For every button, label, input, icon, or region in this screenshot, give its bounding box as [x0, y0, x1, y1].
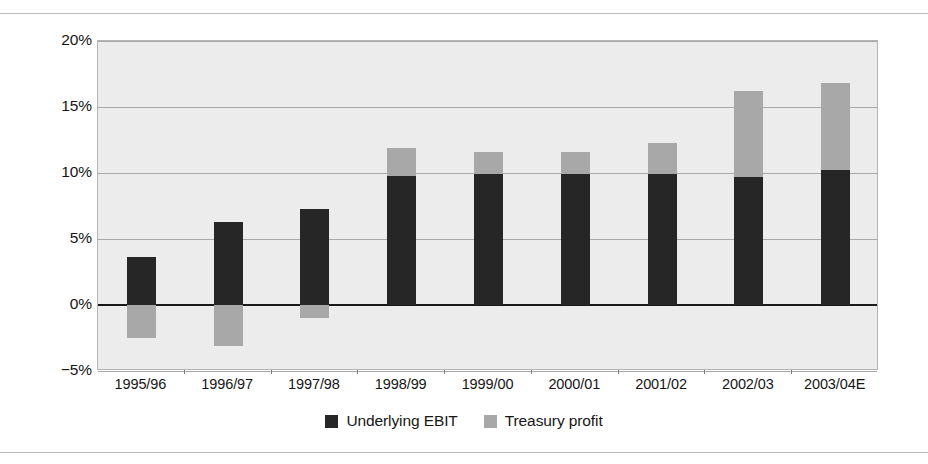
y-axis-tick-label: 20%	[6, 31, 92, 49]
x-axis-tick-label: 2001/02	[635, 376, 687, 392]
bar-segment-treasury-profit	[734, 91, 763, 177]
bar-segment-underlying-ebit	[214, 222, 243, 305]
bottom-divider-rule	[0, 452, 928, 453]
legend-item[interactable]: Treasury profit	[484, 412, 603, 430]
top-divider-rule	[0, 13, 928, 14]
legend-item[interactable]: Underlying EBIT	[325, 412, 457, 430]
chart-legend: Underlying EBITTreasury profit	[0, 412, 928, 430]
bar-segment-underlying-ebit	[127, 257, 156, 305]
x-axis-tick-mark	[531, 370, 532, 374]
bar-segment-treasury-profit	[474, 152, 503, 174]
y-axis-tick-label: 10%	[6, 163, 92, 181]
y-axis-tick-label: −5%	[6, 361, 92, 379]
x-axis-tick-mark	[618, 370, 619, 374]
y-axis: 20%15%10%5%0%−5%	[0, 40, 92, 370]
x-axis-tick-label: 1996/97	[201, 376, 253, 392]
bar-segment-treasury-profit	[821, 83, 850, 170]
x-axis-tick-label: 1998/99	[375, 376, 427, 392]
bar-segment-treasury-profit	[648, 143, 677, 175]
bar-group	[387, 41, 416, 369]
bar-segment-underlying-ebit	[300, 209, 329, 305]
x-axis-tick-label: 2003/04E	[804, 376, 865, 392]
bar-group	[474, 41, 503, 369]
x-axis-tick-label: 1995/96	[115, 376, 167, 392]
bar-segment-underlying-ebit	[648, 174, 677, 305]
x-axis-tick-label: 2000/01	[548, 376, 600, 392]
plot-area	[97, 40, 878, 370]
bar-segment-underlying-ebit	[387, 176, 416, 305]
x-axis-tick-label: 1997/98	[288, 376, 340, 392]
x-axis-tick-mark	[704, 370, 705, 374]
bar-segment-treasury-profit	[214, 305, 243, 346]
bar-segment-underlying-ebit	[734, 177, 763, 305]
x-axis-tick-mark	[184, 370, 185, 374]
dark-square-swatch	[325, 415, 338, 428]
legend-item-label: Treasury profit	[505, 412, 603, 430]
chart-figure: 20%15%10%5%0%−5% 1995/961996/971997/9819…	[0, 0, 928, 464]
bar-group	[561, 41, 590, 369]
bar-segment-treasury-profit	[127, 305, 156, 338]
bar-group	[648, 41, 677, 369]
x-axis-tick-mark	[791, 370, 792, 374]
bar-segment-underlying-ebit	[821, 170, 850, 305]
x-axis-tick-mark	[357, 370, 358, 374]
bar-segment-treasury-profit	[300, 305, 329, 318]
bar-segment-underlying-ebit	[561, 174, 590, 305]
x-axis-tick-label: 1999/00	[462, 376, 514, 392]
y-axis-tick-label: 0%	[6, 295, 92, 313]
bar-segment-underlying-ebit	[474, 174, 503, 305]
bar-segment-treasury-profit	[387, 148, 416, 176]
y-axis-tick-label: 15%	[6, 97, 92, 115]
x-axis-tick-mark	[444, 370, 445, 374]
light-square-swatch	[484, 415, 497, 428]
x-axis-tick-label: 2002/03	[722, 376, 774, 392]
bar-segment-treasury-profit	[561, 152, 590, 174]
x-axis-tick-mark	[271, 370, 272, 374]
bar-group	[734, 41, 763, 369]
x-axis: 1995/961996/971997/981998/991999/002000/…	[97, 372, 878, 398]
bar-group	[214, 41, 243, 369]
bar-group	[821, 41, 850, 369]
bar-group	[300, 41, 329, 369]
y-axis-tick-label: 5%	[6, 229, 92, 247]
bar-group	[127, 41, 156, 369]
legend-item-label: Underlying EBIT	[346, 412, 457, 430]
